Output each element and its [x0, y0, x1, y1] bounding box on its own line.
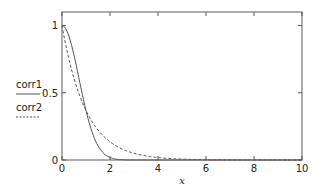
legend-label-corr2: corr2: [16, 102, 42, 113]
series-line-corr2: [62, 25, 302, 160]
series-line-corr1: [62, 25, 302, 160]
y-tick-label: 1: [52, 20, 58, 31]
x-tick-label: 0: [59, 163, 65, 174]
x-tick-label: 6: [203, 163, 209, 174]
legend-label-corr1: corr1: [16, 79, 42, 90]
x-axis-label: x: [179, 175, 185, 186]
y-tick-label: 0: [52, 155, 58, 166]
x-tick-label: 2: [107, 163, 113, 174]
y-tick-label: 0.5: [42, 88, 58, 99]
x-tick-label: 4: [155, 163, 161, 174]
plot-frame: [62, 12, 302, 160]
x-tick-label: 10: [296, 163, 309, 174]
x-tick-label: 8: [251, 163, 257, 174]
chart: 024681000.51x corr1corr2: [0, 0, 323, 194]
